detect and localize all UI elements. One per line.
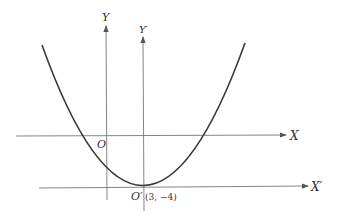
x-axis xyxy=(16,135,286,136)
origin-label: O xyxy=(97,138,106,151)
x-prime-axis-label: X′ xyxy=(310,180,323,194)
new-origin-label: O′ xyxy=(131,190,143,203)
vertex-coords-label: (3, −4) xyxy=(145,192,177,202)
y-prime-axis-label: Y′ xyxy=(139,24,149,35)
parabola-diagram: Y Y′ X X′ O O′ (3, −4) xyxy=(0,0,337,219)
y-axis xyxy=(106,26,107,200)
x-axis-label: X xyxy=(289,129,299,143)
x-prime-axis xyxy=(39,186,308,188)
y-axis-label: Y xyxy=(102,11,111,24)
